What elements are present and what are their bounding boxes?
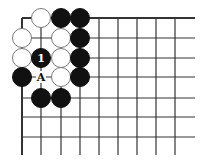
black-stone [71,29,90,48]
white-stone [52,49,71,68]
black-stone [71,49,90,68]
white-stone [32,9,51,28]
go-board-diagram: 1 A [0,0,205,166]
black-stone [52,9,71,28]
white-stone [13,29,32,48]
move-number-label: 1 [37,52,45,65]
black-stone [71,9,90,28]
black-stone [71,68,90,87]
board-grid [22,18,195,155]
white-stone [13,49,32,68]
point-label: A [36,71,46,84]
black-stone [13,68,32,87]
black-stone [52,89,71,108]
white-stone [52,29,71,48]
labels-layer: A [36,71,46,84]
white-stone [52,68,71,87]
black-stone [32,89,51,108]
stones-layer: 1 [13,9,90,108]
